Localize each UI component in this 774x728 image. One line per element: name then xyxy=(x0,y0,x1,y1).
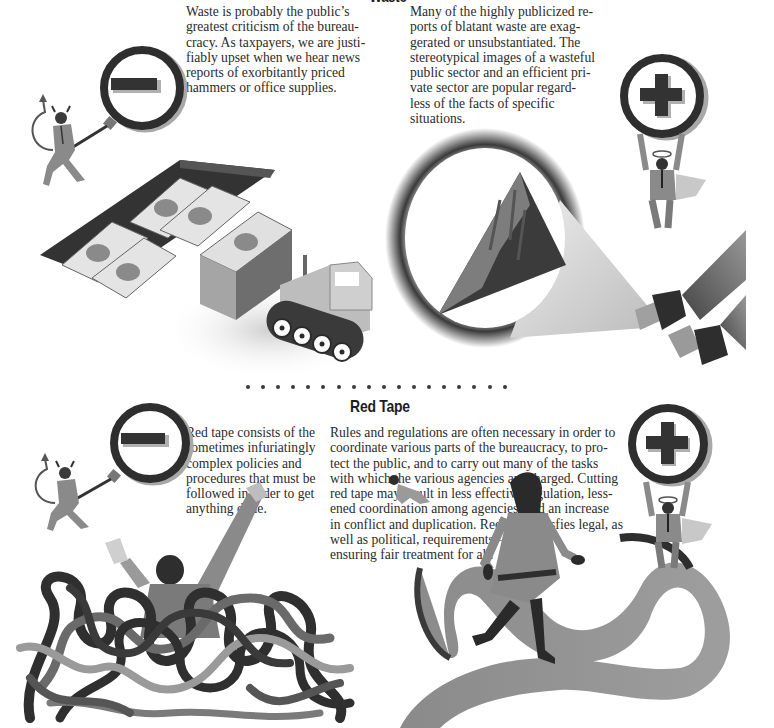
minus-sign-icon xyxy=(114,407,189,481)
section-separator-dots xyxy=(246,385,518,389)
separator-dot xyxy=(276,385,280,389)
waste-pro-text: Many of the highly publicized re- ports … xyxy=(410,4,610,126)
minus-sign-icon xyxy=(104,50,183,128)
separator-dot xyxy=(291,385,295,389)
money-bulldozer-illustration xyxy=(0,160,390,380)
separator-dot xyxy=(457,385,461,389)
separator-dot xyxy=(472,385,476,389)
plus-sign-icon xyxy=(624,58,704,136)
separator-dot xyxy=(427,385,431,389)
red-tape-heading: Red Tape xyxy=(331,397,429,417)
separator-dot xyxy=(306,385,310,389)
separator-dot xyxy=(261,385,265,389)
waste-pro-angel-figure xyxy=(610,50,740,230)
running-man-icon xyxy=(389,475,399,485)
plus-sign-icon xyxy=(632,408,708,482)
waste-con-text: Waste is probably the public’s greatest … xyxy=(186,4,386,96)
separator-dot xyxy=(442,385,446,389)
separator-dot xyxy=(488,385,492,389)
red-tape-pro-angel-figure xyxy=(610,402,740,572)
separator-dot xyxy=(337,385,341,389)
separator-dot xyxy=(321,385,325,389)
tangled-tape-drowning-man-illustration xyxy=(10,488,370,728)
separator-dot xyxy=(352,385,356,389)
separator-dot xyxy=(503,385,507,389)
separator-dot xyxy=(397,385,401,389)
separator-dot xyxy=(246,385,250,389)
separator-dot xyxy=(412,385,416,389)
separator-dot xyxy=(367,385,371,389)
separator-dot xyxy=(382,385,386,389)
